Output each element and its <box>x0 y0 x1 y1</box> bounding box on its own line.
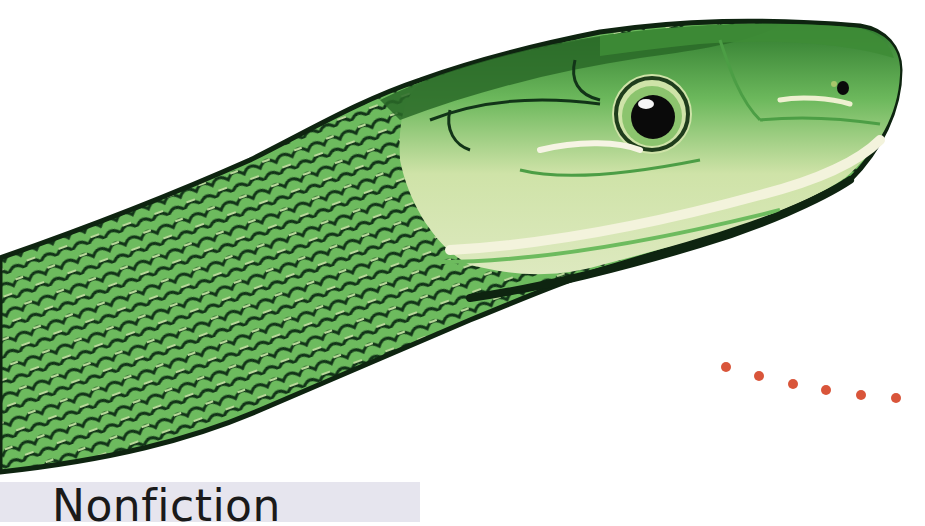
trail-dot <box>721 362 731 372</box>
trail-dot <box>754 371 764 381</box>
trail-dot <box>856 390 866 400</box>
trail-dot <box>891 393 901 403</box>
category-label: Nonfiction <box>52 480 281 526</box>
trail-dot <box>788 379 798 389</box>
trail-dot <box>821 385 831 395</box>
